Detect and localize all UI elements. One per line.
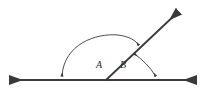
angle-diagram-canvas (0, 0, 208, 94)
angle-B-arc (135, 54, 156, 76)
angle-a-label: A (96, 60, 102, 70)
ray-group (106, 12, 178, 80)
angle-B-arc-group (135, 54, 156, 76)
geometry-figure: A B (0, 0, 208, 94)
oblique-ray (106, 12, 178, 80)
angle-b-label: B (120, 60, 126, 70)
